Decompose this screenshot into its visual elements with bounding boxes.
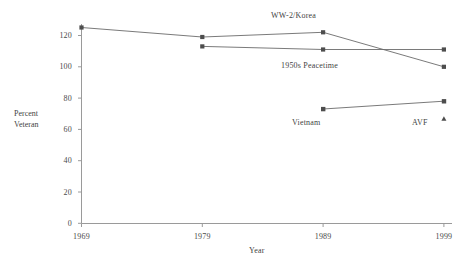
data-point-marker xyxy=(200,44,204,48)
series-label-ww2-korea: WW-2/Korea xyxy=(271,11,316,20)
y-tick-label-20: 20 xyxy=(46,188,72,197)
series-1950s-peacetime xyxy=(200,44,446,51)
series-label-vietnam: Vietnam xyxy=(292,118,320,127)
series-label-avf: AVF xyxy=(412,118,428,127)
series-vietnam xyxy=(321,99,446,111)
y-axis-title-line1: Percent xyxy=(14,108,70,119)
data-point-marker xyxy=(442,47,446,51)
x-tick-label-1979: 1979 xyxy=(182,232,222,241)
series-avf xyxy=(441,116,446,120)
y-tick-label-0: 0 xyxy=(46,219,72,228)
y-tick-label-120: 120 xyxy=(46,31,72,40)
series-ww2-korea xyxy=(79,25,446,68)
y-tick-label-40: 40 xyxy=(46,156,72,165)
y-axis-ticks xyxy=(78,36,82,224)
y-tick-label-100: 100 xyxy=(46,62,72,71)
x-tick-label-1999: 1999 xyxy=(424,232,464,241)
x-axis-ticks xyxy=(82,224,444,228)
x-axis-title: Year xyxy=(249,246,265,256)
data-point-marker xyxy=(442,65,446,69)
data-point-marker-triangle xyxy=(441,116,446,120)
x-tick-label-1989: 1989 xyxy=(303,232,343,241)
data-point-marker xyxy=(321,47,325,51)
x-tick-label-1969: 1969 xyxy=(62,232,102,241)
series-label-1950s-peacetime: 1950s Peacetime xyxy=(281,61,338,70)
data-point-marker xyxy=(321,107,325,111)
data-point-marker xyxy=(200,35,204,39)
data-point-marker xyxy=(321,30,325,34)
y-tick-label-80: 80 xyxy=(46,94,72,103)
data-point-marker xyxy=(79,25,83,29)
y-axis-title-line2: Veteran xyxy=(14,119,70,130)
chart-container: 120 100 80 60 40 20 0 1969 1979 1989 199… xyxy=(0,0,469,273)
y-axis-title: Percent Veteran xyxy=(14,108,70,130)
data-point-marker xyxy=(442,99,446,103)
